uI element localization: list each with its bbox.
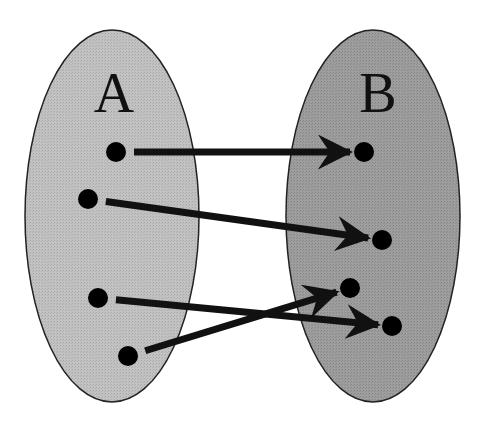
element-dot-a2 xyxy=(78,189,98,209)
set-b-label: B xyxy=(359,62,396,124)
element-dot-a1 xyxy=(106,142,126,162)
element-dot-b3 xyxy=(340,278,360,298)
set-a-label: A xyxy=(94,62,135,124)
element-dot-a4 xyxy=(118,346,138,366)
element-dot-b1 xyxy=(354,142,374,162)
mapping-diagram: A B xyxy=(0,0,483,430)
element-dot-b4 xyxy=(382,316,402,336)
element-dot-a3 xyxy=(88,288,108,308)
element-dot-b2 xyxy=(372,230,392,250)
